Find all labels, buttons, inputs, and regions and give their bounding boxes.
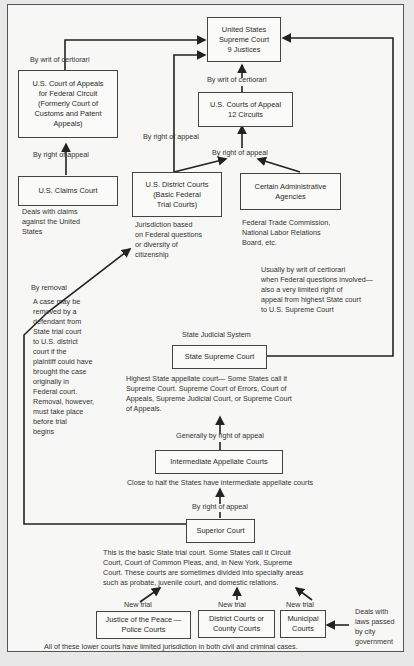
removal-note: A case may be removed by a defendant fro… (33, 297, 94, 437)
label-new-trial-3: New trial (286, 600, 314, 610)
municipal-note: Deals with laws passed by city governmen… (355, 607, 395, 647)
intermediate-note: Close to half the States have intermedia… (100, 478, 340, 488)
district-county-courts-box: District Courts or County Courts (198, 610, 275, 638)
page: United States Supreme Court 9 Justices B… (0, 0, 414, 666)
label-appeal-to-circuits: By right of appeal (212, 148, 268, 158)
admin-agencies-box: Certain Administrative Agencies (240, 173, 341, 210)
superior-court-note: This is the basic State trial court. Som… (103, 548, 303, 588)
claims-court-box: U.S. Claims Court (18, 176, 118, 206)
justice-of-peace-box: Justice of the Peace — Police Courts (96, 611, 191, 639)
label-appeal-claims: By right of appeal (33, 150, 89, 160)
label-appeal-district: By right of appeal (143, 132, 199, 142)
intermediate-appellate-box: Intermediate Appellate Courts (155, 450, 283, 474)
label-new-trial-2: New trial (218, 600, 246, 610)
state-supreme-court-note: Highest State appellate court— Some Stat… (126, 374, 292, 414)
district-courts-note: Jurisdiction based on Federal questions … (135, 220, 202, 260)
label-cert-federal-circuit: By writ of certiorari (30, 55, 90, 65)
federal-circuit-box: U.S. Court of Appeals for Federal Circui… (18, 70, 118, 138)
label-generally-appeal: Generally by right of appeal (160, 431, 280, 441)
state-system-title: State Judicial System (182, 330, 251, 340)
claims-court-note: Deals with claims against the United Sta… (22, 207, 80, 237)
us-courts-of-appeal-box: U.S. Courts of Appeal 12 Circuits (198, 92, 293, 127)
state-supreme-court-box: State Supreme Court (172, 345, 267, 369)
label-by-right-appeal-state: By right of appeal (170, 502, 270, 512)
municipal-courts-box: Municipal Courts (280, 610, 326, 638)
admin-agencies-note: Federal Trade Commission, National Labor… (242, 218, 330, 248)
label-state-to-us-supreme: Usually by writ of certiorari when Feder… (261, 265, 373, 315)
superior-court-box: Superior Court (186, 519, 255, 543)
label-by-removal: By removal (31, 283, 67, 293)
label-cert-courts-of-appeal: By writ of certiorari (207, 75, 267, 85)
lower-courts-footer: All of these lower courts have limited j… (44, 642, 298, 652)
label-new-trial-1: New trial (124, 600, 152, 610)
us-district-courts-box: U.S. District Courts (Basic Federal Tria… (132, 172, 222, 217)
us-supreme-court-box: United States Supreme Court 9 Justices (207, 17, 281, 62)
